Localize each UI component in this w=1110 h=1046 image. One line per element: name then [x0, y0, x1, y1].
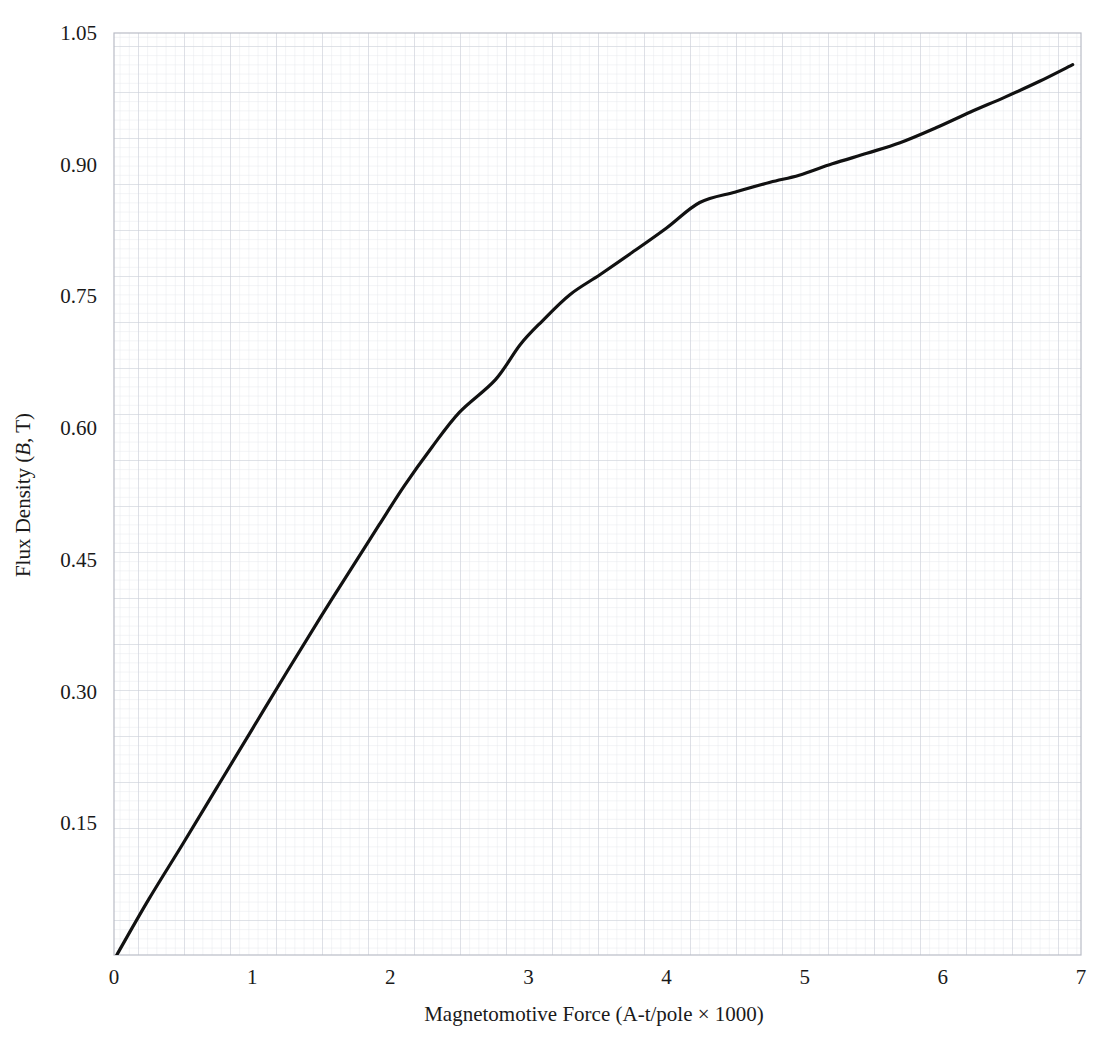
chart-figure: 0.150.300.450.600.750.901.05 01234567 Ma…	[0, 0, 1110, 1046]
x-tick-label: 0	[109, 965, 120, 989]
y-tick-label: 0.45	[60, 548, 97, 572]
y-axis-title-symbol: B	[11, 443, 35, 456]
x-tick-label: 4	[661, 965, 672, 989]
x-tick-label: 2	[385, 965, 396, 989]
x-tick-label: 3	[523, 965, 534, 989]
y-axis-title: Flux Density (B, T)	[11, 413, 35, 577]
y-tick-label: 0.90	[60, 153, 97, 177]
x-tick-label: 6	[938, 965, 949, 989]
y-tick-label: 0.15	[60, 811, 97, 835]
y-tick-label: 0.75	[60, 284, 97, 308]
x-tick-label: 7	[1076, 965, 1087, 989]
magnetization-curve-chart: 0.150.300.450.600.750.901.05 01234567 Ma…	[0, 0, 1110, 1046]
x-axis-title: Magnetomotive Force (A-t/pole × 1000)	[424, 1002, 764, 1026]
y-tick-label: 1.05	[60, 21, 97, 45]
y-axis-title-suffix: , T)	[11, 413, 35, 443]
y-tick-label: 0.30	[60, 680, 97, 704]
x-tick-label: 5	[799, 965, 810, 989]
y-axis-title-prefix: Flux Density (	[11, 456, 35, 577]
x-tick-label: 1	[247, 965, 258, 989]
y-tick-label: 0.60	[60, 416, 97, 440]
plot-grid	[114, 33, 1081, 955]
